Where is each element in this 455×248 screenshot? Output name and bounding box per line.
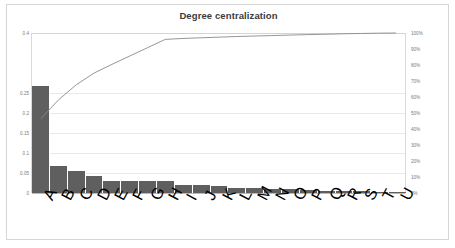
x-axis-tick-label: E bbox=[111, 195, 127, 203]
y-axis-right-tick: 30% bbox=[411, 143, 420, 148]
x-axis-tick-label: Q bbox=[326, 195, 342, 203]
x-axis-tick-label: S bbox=[361, 195, 377, 203]
x-axis-tick-label: L bbox=[236, 195, 252, 203]
y-axis-right-tick: 70% bbox=[411, 79, 420, 84]
x-axis-tick-label: D bbox=[94, 195, 110, 203]
x-axis-tick-label: C bbox=[76, 195, 92, 203]
x-axis-tick-label: A bbox=[40, 195, 56, 203]
y-axis-left: 00.050.10.150.20.250.4 bbox=[7, 31, 31, 195]
x-axis-tick-label: G bbox=[147, 195, 163, 203]
plot-area bbox=[31, 33, 406, 193]
y-axis-right-tick: 10% bbox=[411, 175, 420, 180]
cumulative-line-series bbox=[32, 33, 405, 193]
cumulative-line-path bbox=[41, 33, 396, 119]
x-axis-tick-label: O bbox=[290, 195, 306, 203]
x-axis-tick-label: P bbox=[308, 195, 324, 203]
y-axis-right: 0%10%20%30%40%50%60%70%80%90%100% bbox=[407, 31, 447, 195]
y-axis-left-tick: 0.1 bbox=[23, 151, 29, 156]
x-axis-tick-label: K bbox=[219, 195, 235, 203]
chart-container: Degree centralization 00.050.10.150.20.2… bbox=[6, 4, 449, 240]
x-axis-tick-label: B bbox=[58, 195, 74, 203]
x-axis-tick-label: R bbox=[344, 195, 360, 203]
chart-title: Degree centralization bbox=[7, 10, 450, 21]
y-axis-right-tick: 50% bbox=[411, 111, 420, 116]
y-axis-left-tick: 0.25 bbox=[20, 91, 29, 96]
x-axis-labels: ABCDEFGHIJKLMNOPQRSTU bbox=[31, 193, 406, 239]
y-axis-right-tick: 100% bbox=[411, 31, 423, 36]
y-axis-left-tick: 0.2 bbox=[23, 111, 29, 116]
y-axis-left-tick: 0 bbox=[26, 191, 29, 196]
x-axis-tick-label: T bbox=[379, 195, 395, 203]
x-axis-tick-label: H bbox=[165, 195, 181, 203]
x-axis-tick-label: M bbox=[254, 195, 270, 203]
y-axis-right-tick: 20% bbox=[411, 159, 420, 164]
y-axis-right-tick: 80% bbox=[411, 63, 420, 68]
y-axis-left-tick: 0.05 bbox=[20, 171, 29, 176]
x-axis-tick-label: N bbox=[272, 195, 288, 203]
y-axis-right-tick: 90% bbox=[411, 47, 420, 52]
x-axis-tick-label: I bbox=[183, 195, 199, 203]
y-axis-left-tick: 0.15 bbox=[20, 131, 29, 136]
y-axis-left-tick: 0.4 bbox=[23, 31, 29, 36]
y-axis-right-tick: 60% bbox=[411, 95, 420, 100]
x-axis-tick-label: F bbox=[129, 195, 145, 203]
x-axis-tick-label: J bbox=[201, 195, 217, 203]
y-axis-right-tick: 40% bbox=[411, 127, 420, 132]
x-axis-tick-label: U bbox=[397, 195, 413, 203]
